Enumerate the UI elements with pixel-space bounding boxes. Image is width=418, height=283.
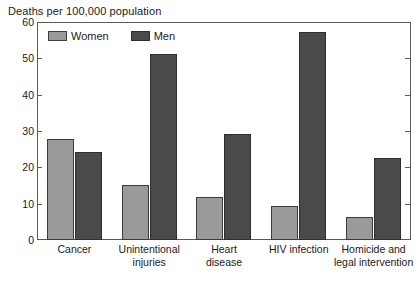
bar-group [261,22,336,240]
x-tick-label-line: legal intervention [324,256,418,269]
bar-group [187,22,262,240]
legend-swatch-women-icon [48,31,67,41]
y-tick-label-20: 20 [8,161,34,173]
y-tick-mark-20 [37,167,42,168]
legend-item-men: Men [131,30,175,42]
y-tick-mark-40 [37,95,42,96]
bar-group [112,22,187,240]
y-tick-label-30: 30 [8,125,34,137]
bar [374,158,401,240]
y-tick-mark-10 [37,204,42,205]
y-tick-mark-50 [37,58,42,59]
legend-label-men: Men [154,30,175,42]
y-tick-mark-right-40 [405,95,410,96]
y-tick-mark-30 [37,131,42,132]
x-axis-category-labels: CancerUnintentionalinjuriesHeartdiseaseH… [37,243,411,281]
y-tick-label-40: 40 [8,89,34,101]
bar [346,217,373,240]
bar [75,152,102,240]
y-tick-mark-right-20 [405,167,410,168]
bar-group [37,22,112,240]
y-axis: 6050403020100 [3,22,34,240]
bar-chart: Deaths per 100,000 population 6050403020… [0,0,418,283]
bar [196,197,223,240]
y-tick-mark-right-50 [405,58,410,59]
chart-legend: Women Men [48,30,175,42]
y-tick-mark-right-10 [405,204,410,205]
x-tick-label-line: disease [175,256,274,269]
bar [224,134,251,240]
bar [299,32,326,240]
x-tick-label-line: Homicide and [324,243,418,256]
y-tick-label-50: 50 [8,52,34,64]
legend-label-women: Women [71,30,109,42]
legend-swatch-men-icon [131,31,150,41]
bar [122,185,149,240]
x-tick-label: Homicide andlegal intervention [324,243,418,268]
bar [47,139,74,240]
bar [150,54,177,240]
legend-item-women: Women [48,30,109,42]
bars-layer [37,22,411,240]
y-tick-mark-right-30 [405,131,410,132]
y-tick-label-60: 60 [8,16,34,28]
bar [271,206,298,240]
bar-group [336,22,411,240]
y-tick-label-10: 10 [8,198,34,210]
